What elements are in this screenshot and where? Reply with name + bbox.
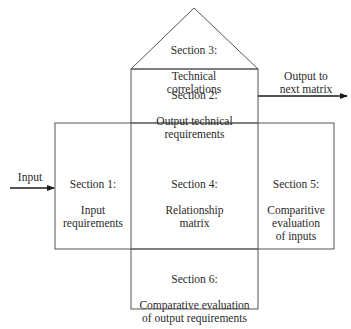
section-4-label: Section 4: Relationship matrix — [131, 165, 258, 243]
section-6-text: Comparative evaluation of output require… — [131, 299, 258, 325]
section-4-text: Relationship matrix — [131, 204, 258, 230]
section-6-title: Section 6: — [131, 273, 258, 286]
section-5-title: Section 5: — [258, 178, 334, 191]
section-3-title: Section 3: — [144, 44, 244, 57]
section-1-text: Input requirements — [55, 204, 131, 230]
section-5-text: Comparitive evaluation of inputs — [258, 204, 334, 243]
section-1-title: Section 1: — [55, 178, 131, 191]
section-2-title: Section 2: — [131, 89, 258, 102]
section-4-title: Section 4: — [131, 178, 258, 191]
input-label: Input — [10, 171, 50, 184]
section-6-label: Section 6: Comparative evaluation of out… — [131, 260, 258, 329]
output-label: Output to next matrix — [266, 70, 346, 96]
section-2-label: Section 2: Output technical requirements — [131, 76, 258, 154]
section-1-label: Section 1: Input requirements — [55, 165, 131, 243]
section-2-text: Output technical requirements — [131, 115, 258, 141]
section-5-label: Section 5: Comparitive evaluation of inp… — [258, 165, 334, 256]
